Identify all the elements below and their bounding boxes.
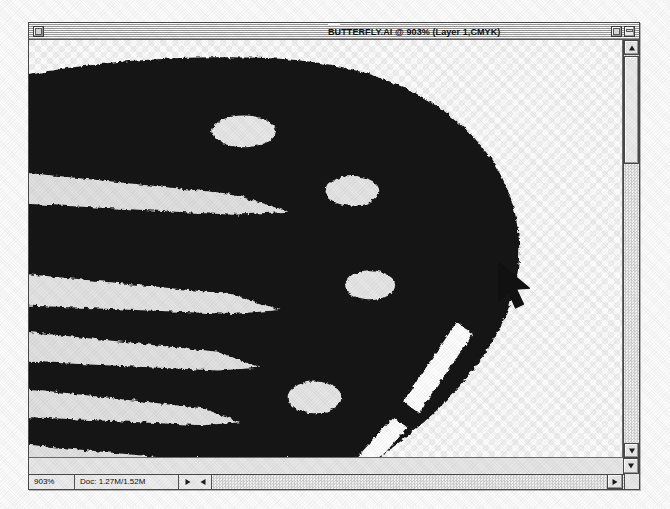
scroll-up-arrow-icon[interactable] [624,40,639,55]
artwork-butterfly-wing [29,40,622,457]
window-title: BUTTERFLY.AI @ 903% (Layer 1,CMYK) [328,26,340,38]
status-nav-right-button[interactable] [182,477,194,487]
status-nav-buttons [180,475,212,489]
zoom-box-button[interactable] [611,26,622,37]
title-text-container: BUTTERFLY.AI @ 903% (Layer 1,CMYK) [328,24,340,26]
vertical-scroll-thumb[interactable] [624,56,639,164]
wing-body [29,57,519,457]
wing-spot-4 [288,382,342,414]
status-bar: 903% Doc: 1.27M/1.52M [29,474,639,489]
triangle-up-icon [629,45,635,50]
document-window: BUTTERFLY.AI @ 903% (Layer 1,CMYK) [28,22,640,490]
triangle-right-icon [186,479,191,485]
vertical-scrollbar[interactable] [623,40,639,458]
collapse-box-button[interactable] [624,26,635,37]
triangle-right-icon-corner [613,479,618,485]
status-nav-left-button[interactable] [197,477,209,487]
zoom-level-field[interactable]: 903% [29,475,75,489]
image-canvas[interactable] [29,40,623,458]
close-box-button[interactable] [33,26,44,37]
zoom-box-icon [613,28,620,35]
wing-shape-group [29,57,519,457]
document-size-field[interactable]: Doc: 1.27M/1.52M [75,475,179,489]
wing-spot-3 [345,270,395,300]
collapse-box-icon [626,29,633,32]
close-box-icon [35,28,42,35]
triangle-left-icon [201,479,206,485]
wing-spot-1 [212,115,276,147]
scroll-right-arrow-corner[interactable] [607,474,623,489]
triangle-down-icon [629,448,635,453]
window-resize-grip[interactable] [624,474,639,489]
title-bar[interactable]: BUTTERFLY.AI @ 903% (Layer 1,CMYK) [29,23,639,40]
wing-spot-2 [326,176,380,206]
scroll-down-arrow-icon[interactable] [624,443,639,458]
triangle-down-icon-bottom [628,464,634,469]
scroll-down-arrow-bottom[interactable] [623,458,639,474]
